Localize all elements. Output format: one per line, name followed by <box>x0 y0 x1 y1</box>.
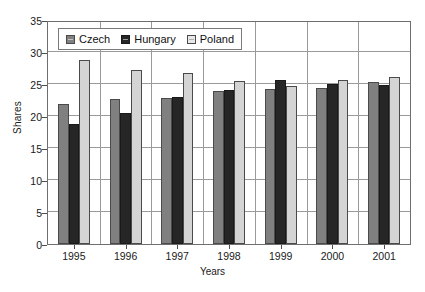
bar-poland-1996[interactable] <box>131 70 142 244</box>
x-axis-tick <box>74 245 75 249</box>
legend-entry-czech[interactable]: Czech <box>66 33 110 45</box>
bar-hungary-1997[interactable] <box>172 97 183 244</box>
y-axis-tick <box>42 245 47 246</box>
bar-czech-1999[interactable] <box>265 89 276 244</box>
bar-czech-1995[interactable] <box>58 104 69 244</box>
bar-hungary-1995[interactable] <box>69 124 80 244</box>
y-axis-tick <box>42 181 47 182</box>
y-axis-tick <box>42 21 47 22</box>
y-axis-tick <box>42 85 47 86</box>
x-axis-tick-label: 1997 <box>166 250 189 262</box>
x-axis-tick-label: 1998 <box>217 250 240 262</box>
bar-czech-2001[interactable] <box>368 82 379 244</box>
legend-label: Czech <box>79 33 110 45</box>
bar-hungary-2001[interactable] <box>379 85 390 244</box>
y-axis-tick <box>42 117 47 118</box>
x-axis-tick <box>384 245 385 249</box>
bar-poland-2001[interactable] <box>389 77 400 244</box>
legend-label: Poland <box>200 33 234 45</box>
bar-group <box>358 22 410 244</box>
x-axis-tick <box>126 245 127 249</box>
bar-hungary-1996[interactable] <box>120 113 131 244</box>
bars-layer <box>48 22 410 244</box>
x-axis-tick-label: 1999 <box>269 250 292 262</box>
x-axis-tick-label: 2001 <box>372 250 395 262</box>
bar-group <box>48 22 100 244</box>
legend: CzechHungaryPoland <box>58 28 242 50</box>
bar-group <box>100 22 152 244</box>
y-axis-tick-label: 30 <box>12 47 42 59</box>
y-axis-tick-label: 25 <box>12 79 42 91</box>
bar-czech-1998[interactable] <box>213 91 224 244</box>
bar-poland-1997[interactable] <box>183 73 194 244</box>
legend-entry-hungary[interactable]: Hungary <box>121 33 176 45</box>
y-axis-tick-label: 5 <box>12 207 42 219</box>
bar-poland-1999[interactable] <box>286 86 297 244</box>
x-axis-tick-label: 1995 <box>62 250 85 262</box>
y-axis-tick-label: 0 <box>12 239 42 251</box>
y-axis-tick-label: 10 <box>12 175 42 187</box>
bar-czech-2000[interactable] <box>316 88 327 244</box>
x-axis-tick-label: 1996 <box>114 250 137 262</box>
y-axis-tick-label: 15 <box>12 143 42 155</box>
y-axis-tick-label: 35 <box>12 15 42 27</box>
x-axis-tick <box>177 245 178 249</box>
bar-hungary-1998[interactable] <box>224 90 235 244</box>
bar-hungary-2000[interactable] <box>327 84 338 244</box>
y-axis-tick <box>42 213 47 214</box>
legend-swatch-icon <box>66 35 75 44</box>
bar-hungary-1999[interactable] <box>275 80 286 244</box>
legend-label: Hungary <box>134 33 176 45</box>
bar-group <box>255 22 307 244</box>
legend-swatch-icon <box>187 35 196 44</box>
legend-swatch-icon <box>121 35 130 44</box>
x-axis-tick <box>281 245 282 249</box>
bar-czech-1997[interactable] <box>161 98 172 244</box>
y-axis-tick-label: 20 <box>12 111 42 123</box>
y-axis-tick <box>42 149 47 150</box>
bar-czech-1996[interactable] <box>110 99 121 244</box>
bar-poland-1995[interactable] <box>79 60 90 244</box>
x-axis-tick <box>332 245 333 249</box>
x-axis-tick-label: 2000 <box>321 250 344 262</box>
bar-poland-2000[interactable] <box>338 80 349 244</box>
bar-group <box>307 22 359 244</box>
x-axis-title: Years <box>0 266 425 277</box>
y-axis-tick <box>42 53 47 54</box>
bar-group <box>203 22 255 244</box>
bar-poland-1998[interactable] <box>234 81 245 244</box>
legend-entry-poland[interactable]: Poland <box>187 33 234 45</box>
bar-chart: Shares 05101520253035 199519961997199819… <box>0 0 425 292</box>
bar-group <box>151 22 203 244</box>
x-axis-tick <box>229 245 230 249</box>
